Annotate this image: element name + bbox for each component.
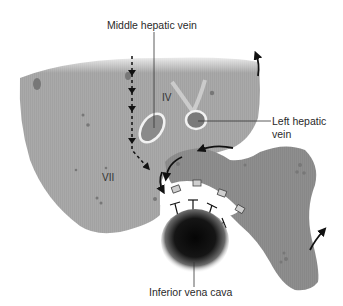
- label-inferior-vena-cava: Inferior vena cava: [149, 286, 232, 299]
- label-left-hepatic-vein-line2: vein: [272, 128, 291, 141]
- liver-diagram: Middle hepatic vein Left hepatic vein In…: [0, 0, 343, 306]
- label-middle-hepatic-vein: Middle hepatic vein: [107, 19, 197, 32]
- liver-illustration: [0, 0, 343, 306]
- segment-iv-label: IV: [162, 92, 171, 103]
- label-left-hepatic-vein-line1: Left hepatic: [272, 115, 326, 128]
- left-hepatic-vein-lumen: [186, 111, 206, 129]
- segment-vii-label: VII: [102, 172, 114, 183]
- inferior-vena-cava: [161, 209, 229, 273]
